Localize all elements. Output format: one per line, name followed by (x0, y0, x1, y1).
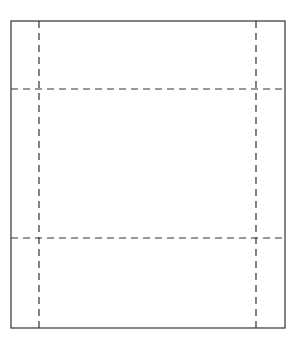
outline-rect (11, 21, 285, 328)
fold-lines (11, 21, 285, 328)
fold-diagram (0, 0, 299, 348)
